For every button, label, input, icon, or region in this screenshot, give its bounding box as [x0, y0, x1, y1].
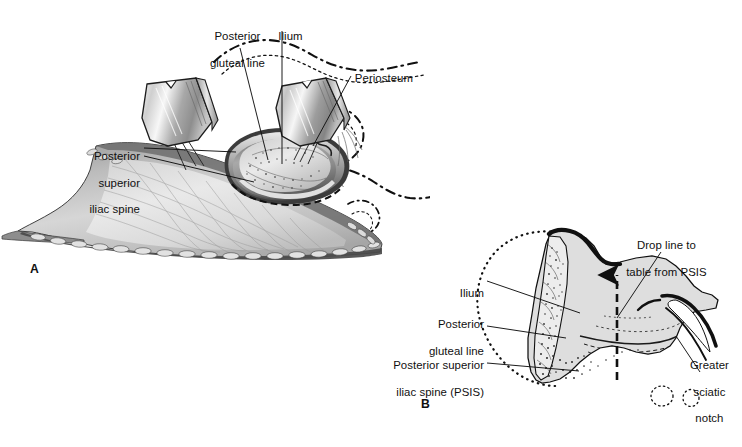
label-line-2: sciatic	[693, 386, 725, 398]
label-line-1: Periosteum	[355, 72, 413, 84]
label-line-3: iliac spine	[89, 203, 140, 215]
label-posterior-superior-iliac-spine-a: Posterior superior iliac spine	[64, 137, 140, 230]
label-periosteum-a: Periosteum	[342, 59, 412, 99]
label-line-1: Ilium	[278, 30, 302, 42]
label-drop-line-to-table-from-psis: Drop line to table from PSIS	[606, 226, 714, 292]
ghost-circle-1	[651, 386, 673, 406]
label-line-1: Posterior	[438, 318, 484, 330]
label-line-2: iliac spine (PSIS)	[396, 386, 484, 398]
label-line-1: Greater	[690, 359, 729, 371]
label-line-1: Ilium	[460, 287, 484, 299]
label-line-2: gluteal line	[210, 57, 265, 69]
label-line-2: table from PSIS	[626, 266, 707, 278]
panel-label-a: A	[30, 262, 39, 276]
label-line-1: Posterior superior	[393, 359, 484, 371]
label-posterior-gluteal-line-a: Posterior gluteal line	[195, 17, 267, 83]
label-line-1: Drop line to	[637, 239, 696, 251]
label-line-1: Posterior	[94, 150, 140, 162]
label-line-1: Posterior	[214, 30, 260, 42]
label-line-3: notch	[695, 412, 723, 424]
label-greater-sciatic-notch: Greater sciatic notch	[673, 346, 733, 439]
panel-label-b: B	[421, 397, 430, 411]
figure-root: Posterior gluteal line Ilium Periosteum …	[0, 0, 742, 447]
label-line-2: superior	[98, 177, 140, 189]
label-ilium-a: Ilium	[264, 17, 304, 57]
